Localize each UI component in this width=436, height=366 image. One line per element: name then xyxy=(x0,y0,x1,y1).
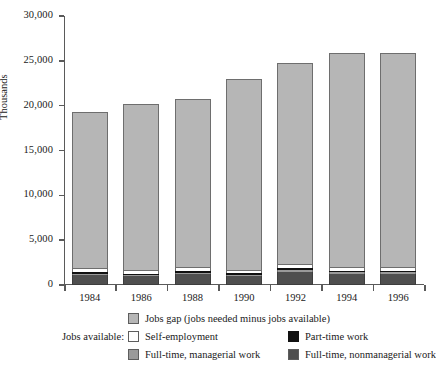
x-axis-tick-label: 1988 xyxy=(167,292,218,303)
bar-segment-jobs-gap xyxy=(329,53,365,268)
bar-segment-part-time xyxy=(72,272,108,274)
bar-segment-part-time xyxy=(277,268,313,270)
bar-segment-part-time xyxy=(123,274,159,276)
legend-row-first: Jobs available: Self-employment Part-tim… xyxy=(62,329,436,344)
x-axis-tick-label: 1984 xyxy=(64,292,115,303)
legend-entry-jobs-gap: Jobs gap (jobs needed minus jobs availab… xyxy=(128,313,330,324)
bars-layer xyxy=(64,16,424,285)
x-axis-tick-label: 1992 xyxy=(270,292,321,303)
legend-swatch-nonmanagerial-icon xyxy=(288,349,299,360)
bar-segment-jobs-gap xyxy=(380,53,416,268)
bar-segment-self-employment xyxy=(72,269,108,272)
bar-segment-managerial xyxy=(123,275,159,276)
x-axis-tick-mark xyxy=(218,285,220,291)
bar-group xyxy=(277,63,313,285)
bar-segment-nonmanagerial xyxy=(123,276,159,285)
legend-entry-managerial: Full-time, managerial work xyxy=(128,349,288,360)
legend-row-gap: Jobs gap (jobs needed minus jobs availab… xyxy=(62,311,436,326)
legend-row-second: Full-time, managerial work Full-time, no… xyxy=(62,347,436,362)
bar-group xyxy=(72,112,108,285)
bar-segment-jobs-gap xyxy=(226,79,262,271)
legend-entry-part-time: Part-time work xyxy=(288,331,368,342)
bar-group xyxy=(175,99,211,285)
bar-chart: Thousands 05,00010,00015,00020,00025,000… xyxy=(0,0,436,366)
bar-segment-managerial xyxy=(72,274,108,275)
x-axis-tick-label: 1994 xyxy=(321,292,372,303)
bar-segment-self-employment xyxy=(380,268,416,271)
legend-swatch-managerial-icon xyxy=(128,349,139,360)
legend-entry-nonmanagerial: Full-time, nonmanagerial work xyxy=(288,349,436,360)
y-axis-tick-label: 15,000 xyxy=(0,144,53,155)
bar-segment-self-employment xyxy=(329,268,365,271)
bar-segment-managerial xyxy=(277,270,313,271)
bar-segment-part-time xyxy=(380,271,416,273)
bar-segment-self-employment xyxy=(226,271,262,273)
bar-group xyxy=(123,104,159,285)
legend-label-jobs-gap: Jobs gap (jobs needed minus jobs availab… xyxy=(145,313,330,324)
x-axis-tick-mark xyxy=(321,285,323,291)
bar-segment-part-time xyxy=(329,271,365,273)
legend-label-nonmanagerial: Full-time, nonmanagerial work xyxy=(305,349,436,360)
legend-label-managerial: Full-time, managerial work xyxy=(145,349,260,360)
y-axis-tick-label: 25,000 xyxy=(0,54,53,65)
bar-segment-nonmanagerial xyxy=(329,274,365,285)
x-axis-tick-label: 1990 xyxy=(218,292,269,303)
y-axis-tick-label: 20,000 xyxy=(0,99,53,110)
bar-segment-managerial xyxy=(380,272,416,273)
bar-segment-jobs-gap xyxy=(175,99,211,268)
bar-segment-nonmanagerial xyxy=(380,274,416,285)
legend-label-part-time: Part-time work xyxy=(305,331,368,342)
bar-segment-nonmanagerial xyxy=(226,276,262,285)
chart-legend: Jobs gap (jobs needed minus jobs availab… xyxy=(62,311,436,365)
x-axis-tick-mark xyxy=(64,285,66,291)
x-axis: 1984198619881990199219941996 xyxy=(64,285,424,307)
bar-segment-managerial xyxy=(226,275,262,276)
bar-group xyxy=(329,53,365,285)
bar-segment-nonmanagerial xyxy=(72,275,108,285)
x-axis-tick-mark xyxy=(115,285,117,291)
y-axis-tick-label: 10,000 xyxy=(0,188,53,199)
bar-segment-self-employment xyxy=(277,265,313,268)
x-axis-tick-mark xyxy=(373,285,375,291)
y-axis-tick-label: 5,000 xyxy=(0,233,53,244)
bar-segment-self-employment xyxy=(175,268,211,271)
x-axis-tick-mark xyxy=(424,285,426,291)
bar-segment-jobs-gap xyxy=(72,112,108,269)
y-axis-tick-label: 30,000 xyxy=(0,9,53,20)
bar-group xyxy=(226,79,262,285)
x-axis-tick-mark xyxy=(270,285,272,291)
x-axis-tick-label: 1986 xyxy=(115,292,166,303)
legend-swatch-self-employment-icon xyxy=(128,331,139,342)
bar-segment-nonmanagerial xyxy=(277,272,313,285)
legend-swatch-jobs-gap-icon xyxy=(128,313,139,324)
bar-segment-managerial xyxy=(175,273,211,274)
bar-segment-managerial xyxy=(329,272,365,273)
bar-segment-self-employment xyxy=(123,271,159,273)
y-axis-tick-label: 0 xyxy=(0,278,53,289)
bar-group xyxy=(380,53,416,285)
legend-swatch-part-time-icon xyxy=(288,331,299,342)
bar-segment-jobs-gap xyxy=(123,104,159,272)
bar-segment-nonmanagerial xyxy=(175,274,211,285)
bar-segment-jobs-gap xyxy=(277,63,313,266)
x-axis-tick-label: 1996 xyxy=(373,292,424,303)
legend-label-self-employment: Self-employment xyxy=(145,331,218,342)
legend-entry-self-employment: Self-employment xyxy=(128,331,288,342)
bar-segment-part-time xyxy=(175,271,211,273)
bar-segment-part-time xyxy=(226,273,262,275)
legend-label-jobs-available: Jobs available: xyxy=(62,331,128,342)
x-axis-tick-mark xyxy=(167,285,169,291)
